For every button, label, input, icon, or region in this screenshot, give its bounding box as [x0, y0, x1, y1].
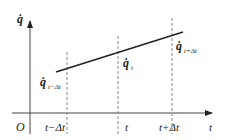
tick-label-t-plus-dt: t+Δt — [159, 121, 180, 133]
tick-label-t-minus-dt: t−Δt — [45, 121, 66, 133]
tick-label-t: t — [125, 121, 129, 133]
point-label-t-plus-dt: q̇ t+Δt — [176, 39, 198, 55]
svg-text:q̇: q̇ — [176, 39, 182, 53]
x-axis-label: t — [209, 121, 213, 133]
svg-text:t−Δt: t−Δt — [48, 83, 62, 91]
diagram-canvas: q̇ t O t−Δt t t+Δt q̇ t−Δt q̇ t q̇ t+Δt — [0, 0, 228, 140]
point-label-t: q̇ t — [123, 56, 134, 72]
velocity-line — [56, 32, 183, 72]
velocity-time-diagram: q̇ t O t−Δt t t+Δt q̇ t−Δt q̇ t q̇ t+Δt — [0, 0, 228, 140]
point-label-t-minus-dt: q̇ t−Δt — [40, 75, 62, 91]
svg-text:q̇: q̇ — [123, 56, 129, 70]
y-axis-label: q̇ — [17, 12, 23, 26]
svg-text:t+Δt: t+Δt — [184, 47, 198, 55]
origin-label: O — [16, 120, 25, 134]
svg-text:t: t — [131, 64, 134, 72]
svg-text:q̇: q̇ — [40, 75, 46, 89]
